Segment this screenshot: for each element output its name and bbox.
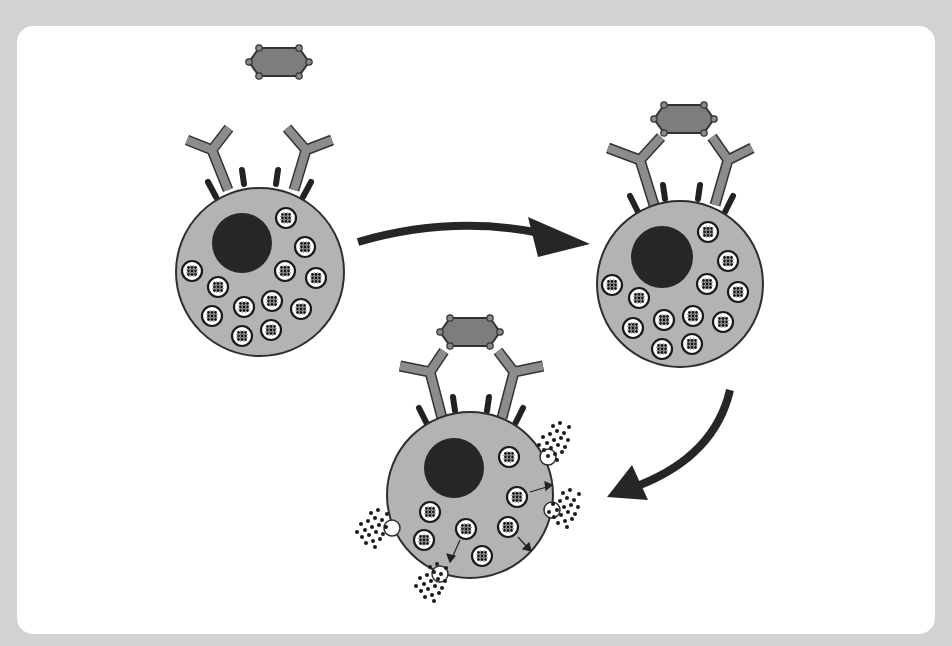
stage-1-mast-cell bbox=[176, 128, 344, 356]
nucleus bbox=[212, 213, 272, 273]
arrow-down-left-icon bbox=[607, 390, 730, 500]
stage-3-degranulating-cell bbox=[355, 315, 581, 603]
nucleus bbox=[631, 226, 693, 288]
cell-body bbox=[387, 412, 553, 578]
arrow-right-icon bbox=[358, 217, 590, 257]
antigen-bound-icon bbox=[651, 102, 717, 136]
ige-antibody-left-icon bbox=[608, 137, 661, 205]
antigen-icon bbox=[246, 45, 312, 79]
mast-cell-diagram bbox=[0, 0, 952, 646]
stage-2-mast-cell bbox=[597, 102, 763, 367]
stage-1-free-antigen bbox=[246, 45, 312, 79]
antigen-bound-icon bbox=[437, 315, 503, 349]
nucleus bbox=[424, 438, 484, 498]
